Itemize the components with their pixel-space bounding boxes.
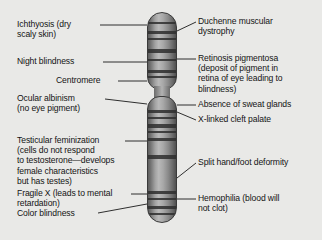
chromosome-short-arm bbox=[147, 12, 177, 90]
band bbox=[148, 59, 176, 61]
band bbox=[148, 213, 176, 215]
label-ocular-albinism: Ocular albinism (no eye pigment) bbox=[17, 93, 107, 113]
label-retinosis-pigmentosa: Retinosis pigmentosa (deposit of pigment… bbox=[198, 53, 320, 94]
label-hemophilia: Hemophilia (blood will not clot) bbox=[198, 193, 316, 213]
label-testicular-feminization: Testicular feminization (cells do not re… bbox=[17, 135, 129, 186]
band bbox=[148, 110, 176, 113]
label-cleft-palate: X-linked cleft palate bbox=[198, 114, 318, 124]
leader-split-hand-foot bbox=[177, 163, 196, 178]
band bbox=[148, 70, 176, 73]
band bbox=[148, 131, 176, 133]
band bbox=[148, 117, 176, 119]
band bbox=[148, 22, 176, 24]
band bbox=[148, 124, 176, 128]
band bbox=[148, 49, 176, 53]
band bbox=[148, 191, 176, 194]
band bbox=[148, 206, 176, 209]
band bbox=[148, 155, 176, 159]
leader-ocular-albinism bbox=[105, 99, 147, 104]
label-ichthyosis: Ichthyosis (dry scaly skin) bbox=[17, 19, 103, 39]
label-fragile-x: Fragile X (leads to mental retardation) bbox=[17, 188, 133, 208]
label-absence-sweat-glands: Absence of sweat glands bbox=[198, 99, 320, 109]
band bbox=[148, 76, 176, 78]
x-chromosome bbox=[147, 12, 177, 223]
label-centromere: Centromere bbox=[56, 75, 118, 85]
label-duchenne: Duchenne muscular dystrophy bbox=[198, 16, 316, 36]
label-color-blindness: Color blindness bbox=[17, 208, 107, 218]
band bbox=[148, 31, 176, 34]
label-night-blindness: Night blindness bbox=[17, 56, 105, 66]
leader-duchenne bbox=[177, 22, 196, 31]
band bbox=[148, 198, 176, 200]
diagram-canvas: Ichthyosis (dry scaly skin) Night blindn… bbox=[0, 0, 322, 240]
leader-cleft-palate bbox=[177, 112, 196, 120]
label-split-hand-foot: Split hand/foot deformity bbox=[198, 157, 320, 167]
band bbox=[148, 38, 176, 40]
chromosome-long-arm bbox=[147, 96, 177, 223]
band bbox=[148, 138, 176, 141]
